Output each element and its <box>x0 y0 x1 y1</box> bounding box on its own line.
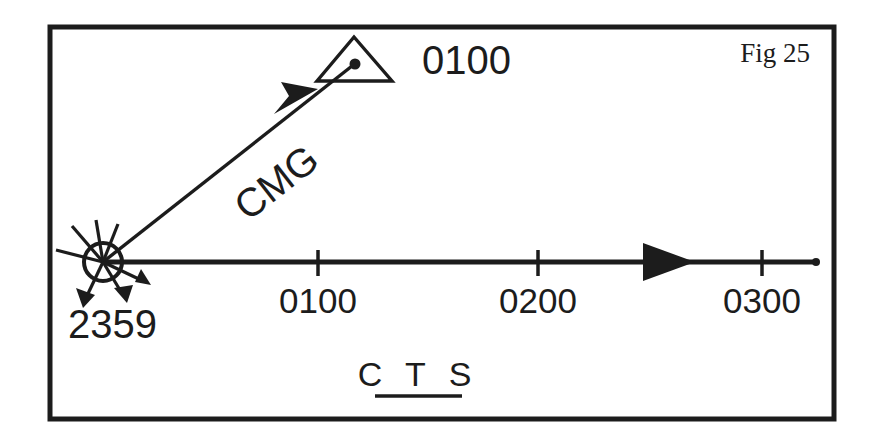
origin-arrowhead-downright <box>135 269 151 285</box>
cts-axis-end-dot <box>812 258 820 266</box>
cts-tick-label-0200: 0200 <box>499 281 577 320</box>
figure-container: 0100 2359 CMG 0100 0200 0300 C T S Fig 2… <box>0 0 874 447</box>
origin-time-label: 2359 <box>68 302 157 346</box>
cmg-label: CMG <box>226 136 327 228</box>
figure-number-label: Fig 25 <box>740 38 810 68</box>
cts-axis-group <box>103 243 820 281</box>
cts-tick-label-0300: 0300 <box>723 281 801 320</box>
fix-position-dot <box>350 59 361 70</box>
fix-triangle-group <box>317 37 392 81</box>
cts-direction-arrowhead <box>643 243 695 281</box>
origin-arrowhead-down <box>114 285 133 303</box>
cts-tick-label-0100: 0100 <box>279 281 357 320</box>
fix-time-label: 0100 <box>422 38 511 82</box>
cts-axis-label: C T S <box>358 355 479 393</box>
navigation-diagram: 0100 2359 CMG 0100 0200 0300 C T S Fig 2… <box>0 0 874 447</box>
